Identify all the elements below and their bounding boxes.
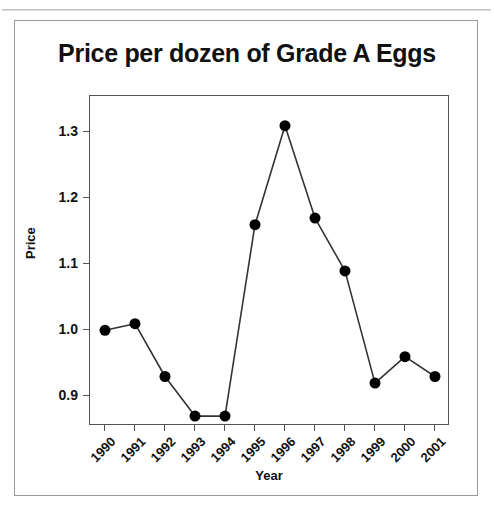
data-point [100, 325, 111, 336]
data-point [220, 411, 231, 422]
y-tick-mark [83, 329, 89, 330]
y-tick-mark [83, 197, 89, 198]
y-tick-label: 0.9 [32, 387, 78, 403]
chart-title: Price per dozen of Grade A Eggs [15, 39, 479, 68]
x-tick-mark [164, 425, 165, 431]
x-tick-mark [434, 425, 435, 431]
x-tick-mark [224, 425, 225, 431]
y-axis-title: Price [23, 227, 38, 259]
data-point [130, 318, 141, 329]
x-tick-mark [134, 425, 135, 431]
y-tick-label: 1.2 [32, 189, 78, 205]
x-tick-mark [104, 425, 105, 431]
top-fragment-right: ............ [250, 0, 277, 1]
data-point [190, 411, 201, 422]
horizontal-rule [2, 9, 491, 11]
x-tick-mark [254, 425, 255, 431]
data-point [370, 378, 381, 389]
data-point [310, 213, 321, 224]
data-point [400, 351, 411, 362]
y-tick-mark [83, 263, 89, 264]
data-point [280, 120, 291, 131]
figure-frame: Price per dozen of Grade A Eggs Price 0.… [14, 20, 478, 496]
plot-area [89, 95, 449, 425]
y-tick-label: 1.0 [32, 321, 78, 337]
scan-top-text-remnant: ............ ............ [0, 0, 494, 8]
data-markers [100, 120, 441, 421]
line-chart-svg [90, 96, 450, 426]
x-tick-mark [284, 425, 285, 431]
data-point [160, 371, 171, 382]
x-tick-mark [314, 425, 315, 431]
y-tick-mark [83, 395, 89, 396]
x-tick-mark [404, 425, 405, 431]
data-point [340, 265, 351, 276]
data-point [430, 371, 441, 382]
y-tick-label: 1.1 [32, 255, 78, 271]
y-tick-label: 1.3 [32, 123, 78, 139]
x-tick-mark [344, 425, 345, 431]
data-line [105, 126, 435, 416]
data-point [250, 219, 261, 230]
x-axis-title: Year [89, 468, 449, 483]
x-tick-mark [374, 425, 375, 431]
x-tick-mark [194, 425, 195, 431]
top-fragment-left: ............ [42, 0, 69, 1]
y-tick-mark [83, 131, 89, 132]
